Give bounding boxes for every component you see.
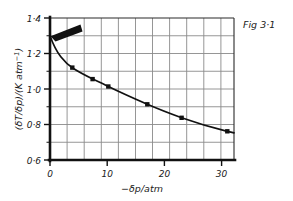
- data-point-5: [179, 116, 183, 120]
- y-tick-label-1-0: 1·0: [27, 85, 42, 95]
- y-tick-label-1-2: 1·2: [27, 49, 42, 59]
- y-tick-label-0-6: 0·6: [27, 156, 42, 166]
- data-point-3: [106, 84, 110, 88]
- figure-caption: Fig 3·1: [243, 19, 275, 30]
- data-point-1: [70, 65, 74, 69]
- x-tick-label-10: 10: [101, 169, 113, 179]
- chart-svg: 1·4 1·2 1·0 0·8 0·6 0 10 20 30 −δp/atm (…: [0, 0, 293, 201]
- figure-container: 1·4 1·2 1·0 0·8 0·6 0 10 20 30 −δp/atm (…: [0, 0, 293, 201]
- x-tick-label-30: 30: [216, 169, 228, 179]
- y-axis-title: (δT/δp)/(K atm−1): [13, 48, 25, 130]
- data-point-4: [145, 102, 149, 106]
- data-point-6: [225, 129, 229, 133]
- x-tick-label-20: 20: [159, 169, 171, 179]
- y-axis-title-tail: ): [13, 48, 24, 53]
- y-tick-label-0-8: 0·8: [27, 120, 42, 130]
- data-point-2: [90, 77, 94, 81]
- y-tick-label-1-4: 1·4: [27, 14, 42, 24]
- x-axis-title: −δp/atm: [121, 183, 163, 194]
- y-axis-title-superscript: −1: [13, 52, 21, 62]
- x-tick-label-0: 0: [47, 169, 53, 179]
- y-axis-title-main: (δT/δp)/(K atm: [13, 61, 24, 130]
